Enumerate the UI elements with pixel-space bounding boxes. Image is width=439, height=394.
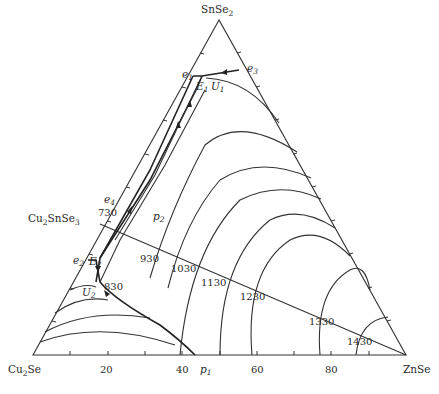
isotherm-1430: 1430 [347, 336, 372, 347]
ternary-phase-diagram: SnSe2 Cu2Se ZnSe Cu2SnSe3 20 40 60 80 73… [0, 0, 439, 394]
vertex-label-top: SnSe2 [201, 3, 233, 18]
tick-20: 20 [100, 364, 113, 375]
tick-80: 80 [325, 364, 338, 375]
point-e4: e4 [104, 193, 115, 207]
point-e3: e3 [247, 62, 258, 76]
tick-40: 40 [176, 364, 189, 375]
point-U2: U2 [82, 286, 96, 300]
point-E1: E1 [195, 80, 208, 94]
point-p1: p1 [200, 363, 212, 377]
isotherm-730: 730 [98, 207, 117, 218]
triangle-frame [33, 20, 406, 355]
tick-60: 60 [251, 364, 264, 375]
point-e2: e2 [73, 254, 84, 268]
isotherm-1030: 1030 [171, 263, 196, 274]
arrows [95, 69, 227, 297]
vertex-label-left: Cu2Se [8, 363, 41, 378]
isotherm-1230: 1230 [240, 291, 265, 302]
point-p2: p2 [153, 210, 165, 224]
compound-label: Cu2SnSe3 [28, 212, 80, 227]
isotherms [150, 78, 388, 355]
left-edge-ticks [52, 53, 204, 322]
vertex-label-right: ZnSe [403, 363, 430, 375]
isotherm-1330: 1330 [309, 316, 334, 327]
isotherm-1130: 1130 [201, 277, 226, 288]
isotherm-830: 830 [104, 281, 123, 292]
point-U1: U1 [211, 80, 225, 94]
isotherm-930: 930 [140, 253, 159, 264]
